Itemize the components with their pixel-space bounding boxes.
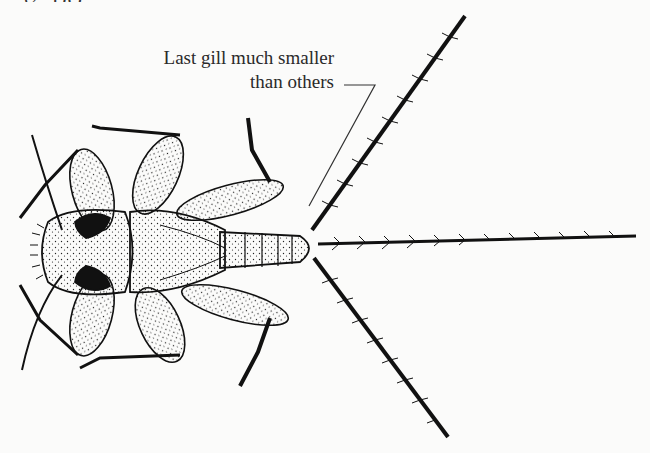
body bbox=[30, 210, 309, 295]
tail-filaments bbox=[312, 16, 636, 437]
illustration-page: 32. DO Last gill much smaller than other… bbox=[0, 0, 650, 453]
insect-drawing bbox=[0, 0, 650, 453]
